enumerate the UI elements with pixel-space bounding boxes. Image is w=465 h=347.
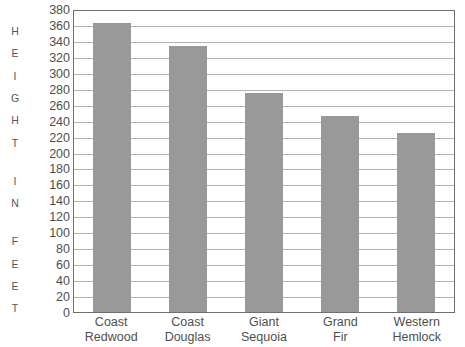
- bar[interactable]: [245, 93, 283, 312]
- y-axis-title-letter: E: [11, 281, 18, 292]
- y-axis-tick-label: 80: [26, 243, 70, 255]
- bar-series: [74, 11, 454, 312]
- y-axis-tick-label: 40: [26, 275, 70, 287]
- y-axis-title-letter: E: [11, 259, 18, 270]
- bar[interactable]: [93, 23, 131, 312]
- y-axis-title: HEIGHTINFEET: [4, 26, 26, 314]
- y-axis-title-letter: T: [12, 138, 18, 149]
- x-axis-category-label: CoastDouglas: [150, 315, 226, 345]
- y-axis-title-letter: E: [11, 48, 18, 59]
- x-axis-category-labels: CoastRedwoodCoastDouglasGiantSequoiaGran…: [73, 315, 455, 347]
- bar-chart: HEIGHTINFEET 380360340320300280260240220…: [0, 0, 465, 347]
- x-axis-category-label: CoastRedwood: [73, 315, 149, 345]
- x-axis-category-label: GrandFir: [302, 315, 378, 345]
- bar[interactable]: [397, 133, 435, 312]
- y-axis-tick-label: 180: [26, 163, 70, 175]
- plot-area: [73, 10, 455, 313]
- x-axis-category-label-line: Douglas: [150, 330, 226, 345]
- y-axis-title-letter: H: [11, 26, 19, 37]
- y-axis-tick-label: 300: [26, 68, 70, 80]
- bar[interactable]: [321, 116, 359, 312]
- x-axis-category-label-line: Sequoia: [226, 330, 302, 345]
- x-axis-category-label-line: Hemlock: [379, 330, 455, 345]
- y-axis-tick-label: 220: [26, 132, 70, 144]
- x-axis-category-label-line: Fir: [302, 330, 378, 345]
- y-axis-tick-label: 320: [26, 52, 70, 64]
- y-axis-tick-label: 60: [26, 259, 70, 271]
- y-axis-tick-label: 280: [26, 84, 70, 96]
- x-axis-category-label: WesternHemlock: [379, 315, 455, 345]
- y-axis-tick-label: 360: [26, 20, 70, 32]
- x-axis-category-label-line: Western: [379, 315, 455, 330]
- y-axis-tick-labels: 3803603403203002802602402202001801601401…: [26, 0, 70, 347]
- x-axis-category-label-line: Giant: [226, 315, 302, 330]
- y-axis-tick-label: 160: [26, 179, 70, 191]
- x-axis-category-label-line: Redwood: [73, 330, 149, 345]
- y-axis-title-letter: I: [14, 71, 17, 82]
- y-axis-title-letter: I: [14, 176, 17, 187]
- x-axis-category-label-line: Coast: [150, 315, 226, 330]
- y-axis-tick-label: 380: [26, 4, 70, 16]
- y-axis-title-letter: N: [11, 198, 19, 209]
- y-axis-tick-label: 340: [26, 36, 70, 48]
- y-axis-title-letter: F: [12, 236, 18, 247]
- y-axis-tick-label: 240: [26, 116, 70, 128]
- y-axis-tick-label: 100: [26, 227, 70, 239]
- y-axis-tick-label: 20: [26, 291, 70, 303]
- y-axis-title-letter: H: [11, 115, 19, 126]
- bar[interactable]: [169, 46, 207, 312]
- y-axis-tick-label: 140: [26, 195, 70, 207]
- x-axis-category-label-line: Coast: [73, 315, 149, 330]
- y-axis-tick-label: 120: [26, 211, 70, 223]
- y-axis-tick-label: 260: [26, 100, 70, 112]
- x-axis-category-label: GiantSequoia: [226, 315, 302, 345]
- y-axis-tick-label: 0: [26, 307, 70, 319]
- y-axis-title-letter: G: [11, 93, 19, 104]
- y-axis-tick-label: 200: [26, 148, 70, 160]
- x-axis-category-label-line: Grand: [302, 315, 378, 330]
- y-axis-title-letter: T: [12, 303, 18, 314]
